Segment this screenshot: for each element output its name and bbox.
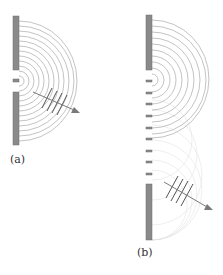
barrier-upper-b [146, 15, 152, 70]
barrier-lower-b [146, 184, 152, 240]
diffraction-diagram [0, 0, 223, 275]
panel-b [146, 15, 213, 240]
panel-b-label: (b) [137, 246, 153, 259]
barrier-lower-a [13, 92, 19, 145]
barrier-upper-a [13, 16, 19, 70]
panel-a-label: (a) [10, 153, 25, 166]
panel-a [13, 16, 80, 145]
circular-wavefronts-a [19, 21, 77, 141]
barrier-middle-a [13, 79, 19, 82]
barrier-b [146, 15, 152, 240]
barrier-a [13, 16, 19, 145]
